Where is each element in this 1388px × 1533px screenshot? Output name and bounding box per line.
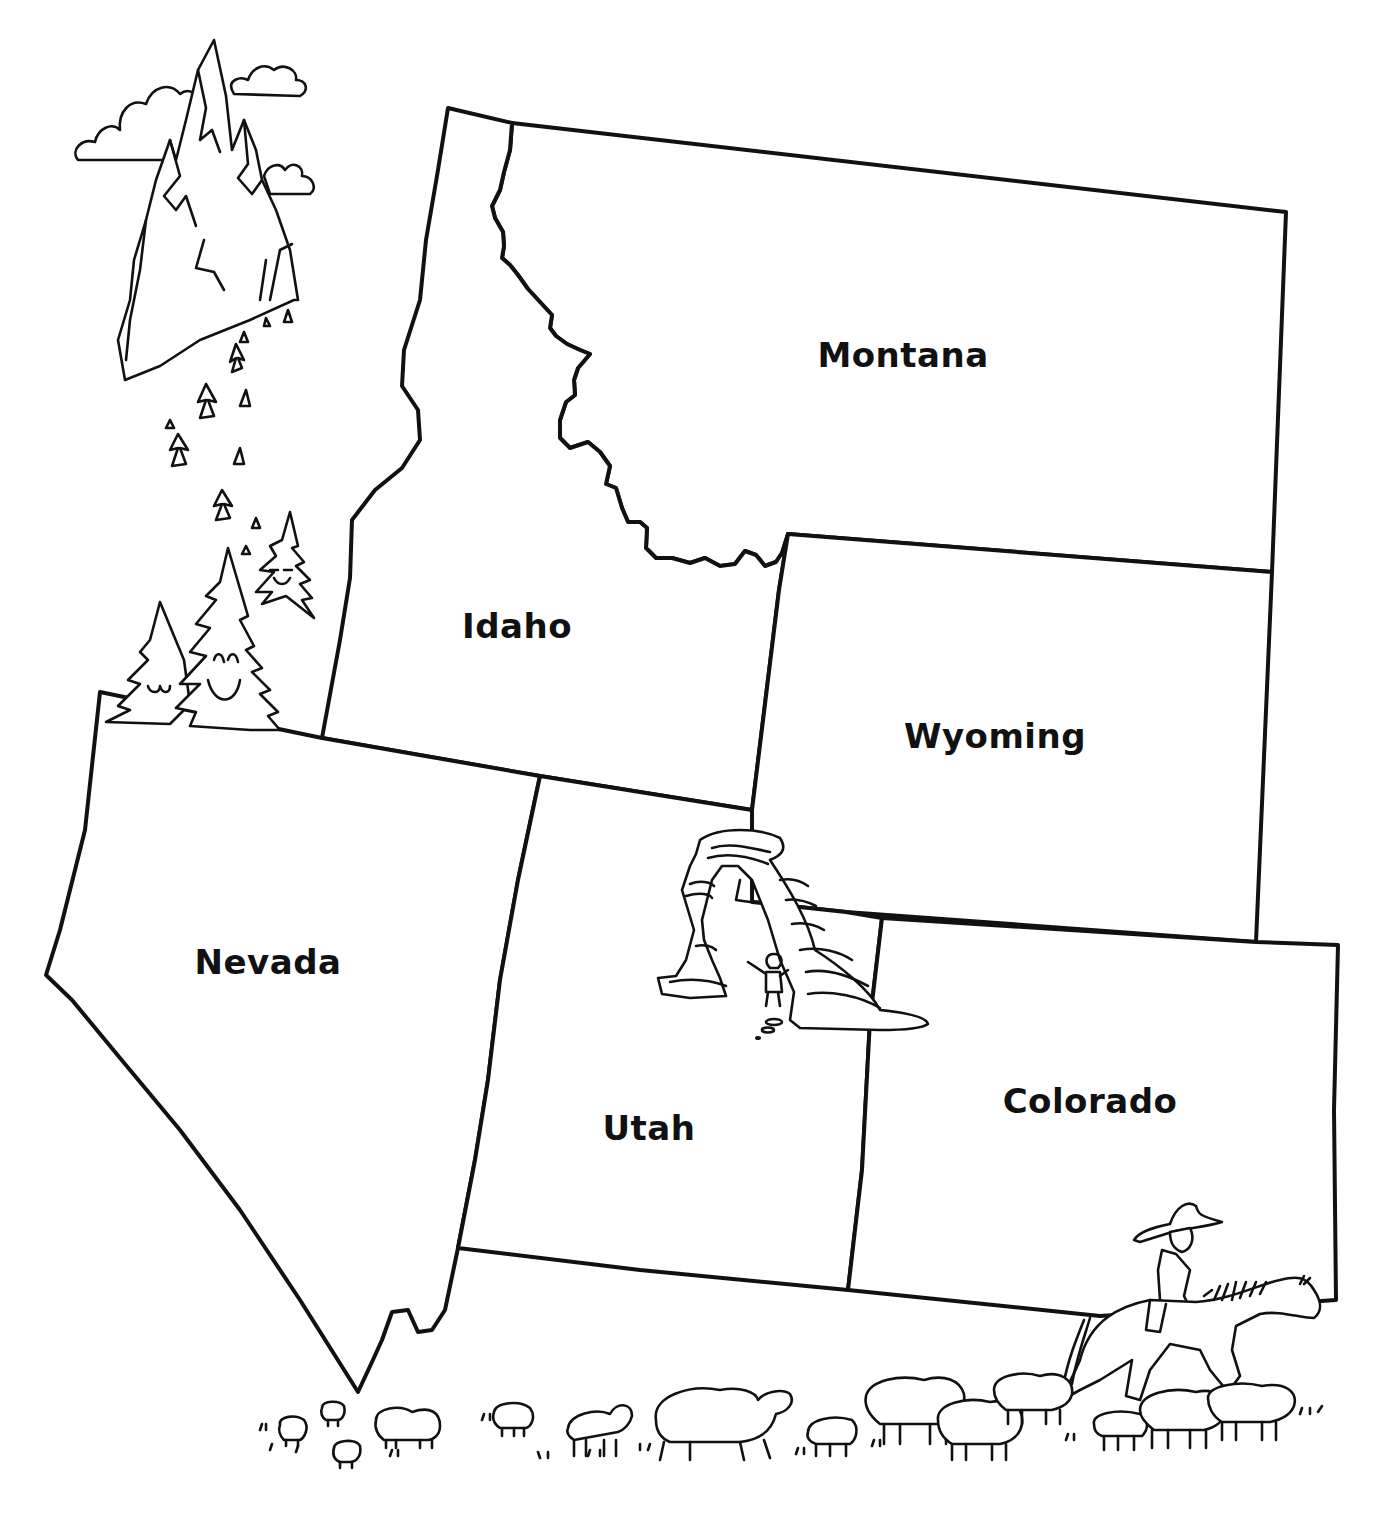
- sheep-icon: [321, 1402, 344, 1426]
- label-nevada: Nevada: [195, 942, 342, 982]
- cloud-icon: [264, 165, 314, 194]
- state-nevada[interactable]: [46, 692, 540, 1392]
- label-idaho: Idaho: [462, 606, 572, 646]
- label-utah: Utah: [602, 1108, 695, 1148]
- mountain-illustration: [75, 40, 313, 554]
- sheep-icon: [656, 1388, 792, 1460]
- sheep-flock-illustration: [260, 1374, 1322, 1468]
- pine-trees-illustration: [106, 512, 314, 730]
- sheep-icon: [333, 1441, 360, 1468]
- sheep-icon: [375, 1408, 440, 1448]
- label-wyoming: Wyoming: [904, 716, 1086, 756]
- western-states-map: [0, 0, 1388, 1533]
- sheep-icon: [807, 1418, 856, 1456]
- label-montana: Montana: [817, 335, 988, 375]
- sheep-icon: [279, 1417, 306, 1446]
- label-colorado: Colorado: [1003, 1081, 1178, 1121]
- sheep-icon: [567, 1405, 632, 1456]
- sheep-icon: [493, 1403, 533, 1436]
- sheep-icon: [1094, 1412, 1147, 1450]
- cloud-icon: [231, 66, 306, 96]
- sheep-icon: [1208, 1384, 1295, 1440]
